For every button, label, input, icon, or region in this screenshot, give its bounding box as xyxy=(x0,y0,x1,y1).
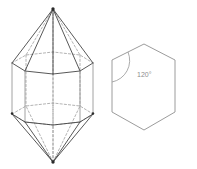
angle-label: 120° xyxy=(137,71,152,78)
figure-canvas: 120° xyxy=(0,0,197,169)
hexagon-outline xyxy=(112,44,175,130)
angle-arc xyxy=(112,52,130,82)
hexagon-diagram: 120° xyxy=(0,0,197,169)
